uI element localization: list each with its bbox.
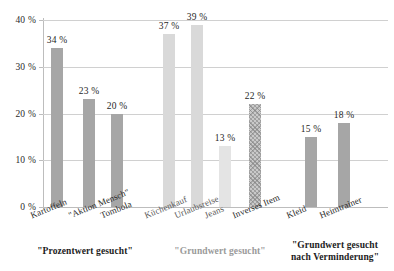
bar-value-label: 23 %	[79, 86, 100, 96]
group-caption: "Prozentwert gesucht"	[10, 245, 160, 257]
y-tick-mark	[39, 114, 43, 115]
bar: 34 %	[51, 48, 63, 207]
bar: 39 %	[191, 25, 203, 207]
bar-value-label: 34 %	[47, 35, 68, 45]
bar-value-label: 22 %	[245, 91, 266, 101]
bar: 22 %	[249, 104, 261, 207]
group-caption: "Grundwert gesucht"	[150, 245, 290, 257]
bar: 23 %	[83, 99, 95, 207]
gridline-30: 30 %	[43, 67, 388, 68]
y-axis-label: 40 %	[15, 15, 36, 25]
bar-value-label: 13 %	[215, 133, 236, 143]
bar: 15 %	[305, 137, 317, 207]
bar-chart: 0 %10 %20 %30 %40 % 34 %23 %20 %37 %39 %…	[0, 0, 394, 271]
bar-value-label: 39 %	[187, 12, 208, 22]
y-axis-label: 10 %	[15, 155, 36, 165]
y-tick-mark	[39, 20, 43, 21]
bar-value-label: 15 %	[301, 124, 322, 134]
bar-value-label: 37 %	[159, 21, 180, 31]
bar: 13 %	[219, 146, 231, 207]
bar-value-label: 18 %	[334, 110, 355, 120]
y-axis-label: 20 %	[15, 109, 36, 119]
bar-value-label: 20 %	[107, 101, 128, 111]
gridline-40: 40 %	[43, 20, 388, 21]
bar: 18 %	[338, 123, 350, 207]
y-axis-label: 30 %	[15, 62, 36, 72]
y-tick-mark	[39, 160, 43, 161]
bar: 37 %	[163, 34, 175, 207]
plot-area: 0 %10 %20 %30 %40 % 34 %23 %20 %37 %39 %…	[43, 20, 388, 207]
group-caption: "Grundwert gesucht nach Verminderung"	[276, 239, 394, 263]
y-tick-mark	[39, 67, 43, 68]
